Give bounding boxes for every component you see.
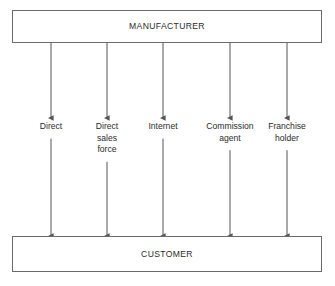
customer-node: CUSTOMER	[12, 236, 322, 272]
channel-label-line: Franchise	[268, 121, 306, 133]
channel-label-line: force	[96, 144, 118, 156]
channel-label-line: holder	[268, 133, 306, 145]
customer-label: CUSTOMER	[141, 250, 193, 259]
manufacturer-node: MANUFACTURER	[12, 10, 322, 43]
channel-label-line: Direct	[96, 121, 118, 133]
channel-label-line: Direct	[40, 121, 62, 133]
channel-label-commission-agent: Commissionagent	[206, 121, 253, 144]
channel-label-line: agent	[206, 133, 253, 145]
channel-label-internet: Internet	[148, 121, 177, 133]
channel-label-franchise-holder: Franchiseholder	[268, 121, 306, 144]
channel-flow-diagram: MANUFACTURER CUSTOMER DirectDirectsalesf…	[0, 0, 335, 286]
channel-label-line: Commission	[206, 121, 253, 133]
manufacturer-label: MANUFACTURER	[129, 22, 205, 31]
channel-label-direct: Direct	[40, 121, 62, 133]
upper-arrow-group	[51, 43, 287, 118]
lower-arrow-group	[51, 139, 287, 236]
channel-label-line: sales	[96, 133, 118, 145]
channel-label-line: Internet	[148, 121, 177, 133]
channel-label-direct-sales-force: Directsalesforce	[96, 121, 118, 156]
